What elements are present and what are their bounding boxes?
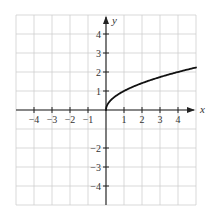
x-tick-label: 1 xyxy=(122,114,127,125)
x-axis-label: x xyxy=(199,103,205,115)
x-tick-label: −2 xyxy=(65,114,76,125)
y-axis-label: y xyxy=(111,14,117,26)
y-tick-label: −2 xyxy=(90,143,101,154)
y-tick-label: 1 xyxy=(96,86,101,97)
y-tick-label: 2 xyxy=(96,67,101,78)
sqrt-function-graph: −4−3−2−11234−4−3−21234 x y xyxy=(0,0,215,218)
sqrt-curve xyxy=(106,68,196,110)
y-tick-label: 4 xyxy=(96,29,101,40)
x-tick-label: 4 xyxy=(176,114,181,125)
x-tick-label: 2 xyxy=(140,114,145,125)
x-tick-label: −1 xyxy=(83,114,94,125)
x-axis-arrow-icon xyxy=(187,107,195,113)
x-tick-label: −4 xyxy=(29,114,40,125)
function-curve xyxy=(106,68,196,110)
y-tick-label: 3 xyxy=(96,48,101,59)
y-tick-label: −4 xyxy=(90,181,101,192)
x-tick-label: −3 xyxy=(47,114,58,125)
y-axis-arrow-icon xyxy=(103,16,109,24)
y-tick-label: −3 xyxy=(90,162,101,173)
x-tick-label: 3 xyxy=(158,114,163,125)
